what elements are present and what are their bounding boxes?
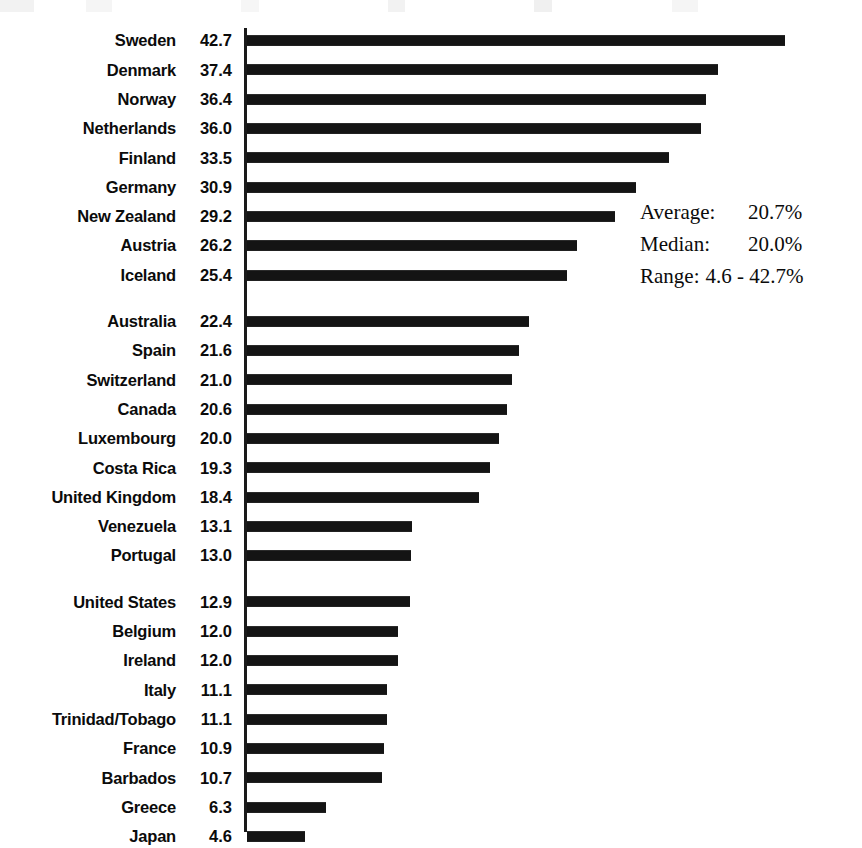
stat-median-value: 20.0% xyxy=(748,228,802,260)
stat-range-label: Range: xyxy=(640,260,699,292)
value-label: 21.0 xyxy=(176,372,232,389)
chart-row: Greece6.3 xyxy=(0,792,862,821)
value-label: 13.0 xyxy=(176,547,232,564)
bar-cell xyxy=(247,763,382,792)
bar xyxy=(247,462,490,473)
chart-row: France10.9 xyxy=(0,734,862,763)
value-label: 10.9 xyxy=(176,740,232,757)
chart-row: Switzerland21.0 xyxy=(0,365,862,394)
value-label: 21.6 xyxy=(176,342,232,359)
category-label: Norway xyxy=(0,91,176,108)
statistics-block: Average:20.7% Median:20.0% Range:4.6 - 4… xyxy=(640,196,803,292)
bar-cell xyxy=(247,482,479,511)
bar-cell xyxy=(247,541,411,570)
category-label: Venezuela xyxy=(0,518,176,535)
bar xyxy=(247,684,387,695)
bar-cell xyxy=(247,705,387,734)
chart-row: Costa Rica19.3 xyxy=(0,453,862,482)
bar xyxy=(247,596,410,607)
chart-row: United Kingdom18.4 xyxy=(0,482,862,511)
bar xyxy=(247,123,701,134)
category-label: New Zealand xyxy=(0,208,176,225)
bar xyxy=(247,240,577,251)
bar xyxy=(247,772,382,783)
value-label: 33.5 xyxy=(176,150,232,167)
bar-cell xyxy=(247,260,567,289)
category-label: Germany xyxy=(0,179,176,196)
category-label: Finland xyxy=(0,150,176,167)
stat-average-value: 20.7% xyxy=(748,196,802,228)
category-label: Japan xyxy=(0,828,176,845)
bar xyxy=(247,655,398,666)
bar-cell xyxy=(247,26,785,55)
category-label: Denmark xyxy=(0,62,176,79)
bar xyxy=(247,743,384,754)
chart-row: Japan4.6 xyxy=(0,822,862,848)
value-label: 12.0 xyxy=(176,623,232,640)
value-label: 30.9 xyxy=(176,179,232,196)
category-label: Trinidad/Tobago xyxy=(0,711,176,728)
category-label: Costa Rica xyxy=(0,460,176,477)
category-label: Portugal xyxy=(0,547,176,564)
bar-cell xyxy=(247,617,398,646)
chart-row: United States12.9 xyxy=(0,587,862,616)
chart-row: Luxembourg20.0 xyxy=(0,424,862,453)
value-label: 26.2 xyxy=(176,237,232,254)
chart-row: Portugal13.0 xyxy=(0,541,862,570)
bar xyxy=(247,94,706,105)
bar xyxy=(247,316,529,327)
bar-cell xyxy=(247,453,490,482)
chart-row: Barbados10.7 xyxy=(0,763,862,792)
category-label: Belgium xyxy=(0,623,176,640)
value-label: 13.1 xyxy=(176,518,232,535)
bar xyxy=(247,182,636,193)
category-label: France xyxy=(0,740,176,757)
chart-rows: Sweden42.7Denmark37.4Norway36.4Netherlan… xyxy=(0,26,862,848)
category-label: Greece xyxy=(0,799,176,816)
value-label: 22.4 xyxy=(176,313,232,330)
bar-cell xyxy=(247,55,718,84)
category-label: Switzerland xyxy=(0,372,176,389)
bar-cell xyxy=(247,675,387,704)
category-label: United Kingdom xyxy=(0,489,176,506)
value-label: 18.4 xyxy=(176,489,232,506)
bar-cell xyxy=(247,202,615,231)
bar-cell xyxy=(247,365,512,394)
bar xyxy=(247,35,785,46)
bar-cell xyxy=(247,143,669,172)
bar-cell xyxy=(247,307,529,336)
bar-cell xyxy=(247,587,410,616)
bar-chart: Sweden42.7Denmark37.4Norway36.4Netherlan… xyxy=(0,0,862,848)
stat-average-row: Average:20.7% xyxy=(640,196,803,228)
bar xyxy=(247,152,669,163)
category-label: Iceland xyxy=(0,267,176,284)
bar xyxy=(247,64,718,75)
value-label: 10.7 xyxy=(176,770,232,787)
bar xyxy=(247,404,507,415)
category-label: Spain xyxy=(0,342,176,359)
chart-row: Trinidad/Tobago11.1 xyxy=(0,705,862,734)
value-label: 36.4 xyxy=(176,91,232,108)
category-label: Luxembourg xyxy=(0,430,176,447)
chart-row: Spain21.6 xyxy=(0,336,862,365)
category-label: Italy xyxy=(0,682,176,699)
bar xyxy=(247,492,479,503)
chart-row: Norway36.4 xyxy=(0,85,862,114)
bar-cell xyxy=(247,172,636,201)
category-label: Austria xyxy=(0,237,176,254)
bar xyxy=(247,831,305,842)
bar xyxy=(247,433,499,444)
bar xyxy=(247,802,326,813)
category-label: Sweden xyxy=(0,32,176,49)
chart-row: Ireland12.0 xyxy=(0,646,862,675)
chart-row: Finland33.5 xyxy=(0,143,862,172)
value-label: 42.7 xyxy=(176,32,232,49)
bar-cell xyxy=(247,336,519,365)
bar xyxy=(247,521,412,532)
chart-row: Italy11.1 xyxy=(0,675,862,704)
category-label: Australia xyxy=(0,313,176,330)
stat-range-value: 4.6 - 42.7% xyxy=(705,260,803,292)
value-label: 11.1 xyxy=(176,711,232,728)
category-label: Barbados xyxy=(0,770,176,787)
bar-cell xyxy=(247,395,507,424)
